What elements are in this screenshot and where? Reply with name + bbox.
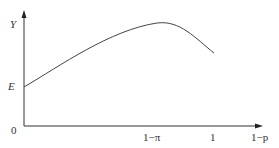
y-intercept-label: E [8,81,15,92]
chart-canvas [0,0,279,148]
y-axis-arrow-icon [22,10,27,18]
x-axis-arrow-icon [255,124,263,129]
x-axis-label: 1−p [251,132,268,143]
curve-line [24,23,214,87]
x-tick-peak: 1−π [143,132,160,143]
origin-label: 0 [11,125,17,136]
y-axis-label: Y [10,19,16,30]
x-tick-one: 1 [210,132,216,143]
